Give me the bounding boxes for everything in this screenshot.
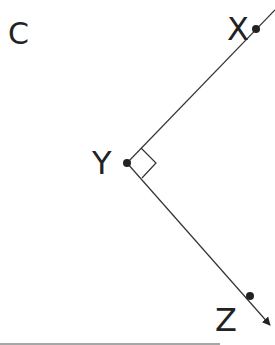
- label-y: Y: [91, 144, 112, 182]
- diagram-canvas: C X Y Z: [0, 0, 275, 345]
- ray-yx: [127, 10, 275, 163]
- point-x: [252, 25, 260, 33]
- ray-yz: [127, 163, 270, 325]
- point-z: [246, 292, 254, 300]
- label-z: Z: [215, 301, 237, 339]
- point-y: [123, 159, 131, 167]
- right-angle-mark: [141, 148, 156, 178]
- label-x: X: [227, 10, 249, 48]
- panel-label: C: [8, 16, 29, 51]
